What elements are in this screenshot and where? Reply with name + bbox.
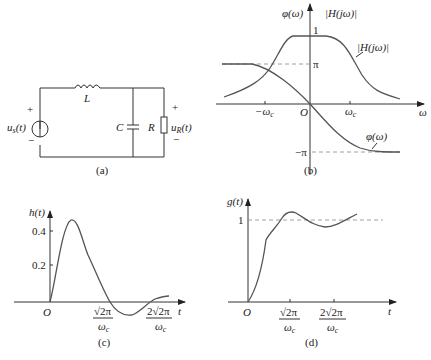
capacitor-label: C xyxy=(116,121,124,133)
caption-a: (a) xyxy=(96,164,109,177)
source-minus: − xyxy=(28,134,34,146)
tick-one-b: 1 xyxy=(313,24,319,36)
frequency-response-plot: φ(ω) |H(jω)| 1 π −π |H(jω)| φ(ω) O −ωc ω… xyxy=(216,4,427,177)
phase-curve-label: φ(ω) xyxy=(366,130,388,143)
inductor-label: L xyxy=(83,92,90,104)
impulse-response-plot: h(t) 0.4 0.2 O t √2π ωc 2√2π ωc (c) xyxy=(14,206,185,349)
tick1-num-c: √2π xyxy=(94,305,112,317)
g-axis-label: g(t) xyxy=(227,195,243,208)
tick-label-0.4: 0.4 xyxy=(32,225,46,237)
tick-pi: π xyxy=(313,58,319,70)
tick2-num-c: 2√2π xyxy=(147,305,170,317)
origin-d: O xyxy=(243,306,251,318)
step-response-curve xyxy=(248,212,357,302)
t-axis-label-c: t xyxy=(178,305,182,317)
resistor-symbol xyxy=(161,117,167,133)
resistor-label: R xyxy=(147,121,155,133)
t-axis-label-d: t xyxy=(388,305,392,317)
phase-axis-label: φ(ω) xyxy=(282,7,304,20)
caption-c: (c) xyxy=(98,336,111,349)
figure-canvas: L C R + − us(t) + − uR(t) (a) φ(ω) |H(jω… xyxy=(0,0,431,360)
omega-axis-label: ω xyxy=(419,106,427,118)
output-label: uR(t) xyxy=(171,121,192,135)
neg-wc-label: −ωc xyxy=(255,105,274,119)
circuit-diagram: L C R + − us(t) + − uR(t) (a) xyxy=(7,85,192,177)
source-plus: + xyxy=(27,103,33,115)
phase-leader xyxy=(372,143,377,149)
tick2-num-d: 2√2π xyxy=(320,306,343,318)
magnitude-curve-label: |H(jω)| xyxy=(357,41,389,54)
origin-b: O xyxy=(300,106,308,118)
tick2-den-d: ωc xyxy=(327,321,339,335)
tick2-den-c: ωc xyxy=(155,320,167,334)
tick1-den-d: ωc xyxy=(284,321,296,335)
caption-d: (d) xyxy=(305,336,318,349)
tick-label-0.2: 0.2 xyxy=(32,259,46,271)
tick-one-d: 1 xyxy=(238,214,244,226)
source-label: us(t) xyxy=(7,121,26,135)
inductor-symbol xyxy=(75,85,100,88)
tick1-num-d: √2π xyxy=(280,306,298,318)
magnitude-axis-label: |H(jω)| xyxy=(325,7,357,20)
wire-bottom xyxy=(40,145,164,157)
wc-label: ωc xyxy=(345,105,357,119)
step-response-plot: g(t) 1 O t √2π ωc 2√2π ωc (d) xyxy=(227,195,396,349)
tick1-den-c: ωc xyxy=(98,320,110,334)
output-plus: + xyxy=(172,101,178,113)
h-axis-label: h(t) xyxy=(29,206,45,219)
tick-neg-pi: −π xyxy=(295,146,307,158)
impulse-response-curve xyxy=(50,220,169,315)
origin-c: O xyxy=(43,306,51,318)
caption-b: (b) xyxy=(304,164,317,177)
